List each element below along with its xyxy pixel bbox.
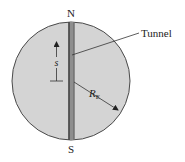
earth-tunnel-diagram: Tunnel N S s RE	[0, 0, 185, 162]
north-label: N	[67, 7, 75, 19]
south-label: S	[68, 143, 74, 155]
displacement-label: s	[55, 57, 59, 68]
tunnel	[69, 22, 75, 140]
tunnel-label: Tunnel	[141, 27, 172, 39]
radius-subscript: E	[96, 93, 100, 101]
